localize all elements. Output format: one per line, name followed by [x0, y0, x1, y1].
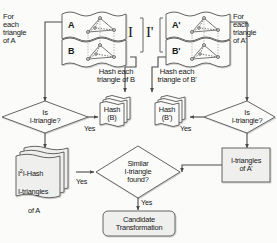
- sheet-a-label: A: [68, 21, 74, 31]
- bracket-i-prime: [160, 18, 163, 52]
- sheet-a-prime-label: A': [172, 21, 180, 31]
- decision-left-label: Is I-triangle?: [16, 106, 74, 128]
- edge-i-tri-a-prime-to-similar: [182, 165, 222, 172]
- i2i-hash-a-line3: of A: [18, 206, 40, 215]
- edge-a-to-decision-left: [45, 22, 62, 101]
- i-triangles-a-prime-label: I-triangles of A': [223, 154, 269, 176]
- similar-found-label: Similar I-triangle found?: [113, 158, 163, 186]
- yes-left-decision-label: Yes: [84, 125, 95, 133]
- sheet-b-prime-label: B': [172, 47, 180, 57]
- i2i-hash-a-line2: I-triangles: [18, 187, 48, 196]
- i2i-hash-a-line1: I2I-Hash: [18, 169, 43, 178]
- candidate-transformation-label: Candidate Transformation: [103, 213, 175, 234]
- yes-candidate-label: Yes: [141, 199, 152, 207]
- label-hash-each-triangle-of-b: Hash each triangle of B: [87, 68, 145, 84]
- yes-left-similar-label: Yes: [76, 178, 87, 186]
- label-hash-each-triangle-of-b-prime: Hash each triangle of B': [147, 68, 207, 84]
- label-for-each-triangle-of-a: For each triangle of A: [3, 13, 43, 45]
- flowchart-diagram: For each triangle of A For each triangle…: [0, 0, 277, 243]
- hash-b-prime-label: Hash (B'): [154, 104, 180, 124]
- sheet-b-label: B: [68, 47, 74, 57]
- bracket-i-prime-label: I': [146, 25, 153, 41]
- yes-right-decision-label: Yes: [180, 125, 191, 133]
- bracket-i-label: I: [128, 25, 133, 41]
- label-for-each-triangle-of-a-prime: For each triangle of A': [233, 13, 275, 45]
- hash-b-label: Hash (B): [100, 104, 124, 124]
- bracket-i: [140, 18, 143, 52]
- i2i-hash-a-label: I2I-Hash I-triangles of A: [18, 158, 60, 215]
- decision-right-label: Is I-triangle?: [218, 106, 276, 128]
